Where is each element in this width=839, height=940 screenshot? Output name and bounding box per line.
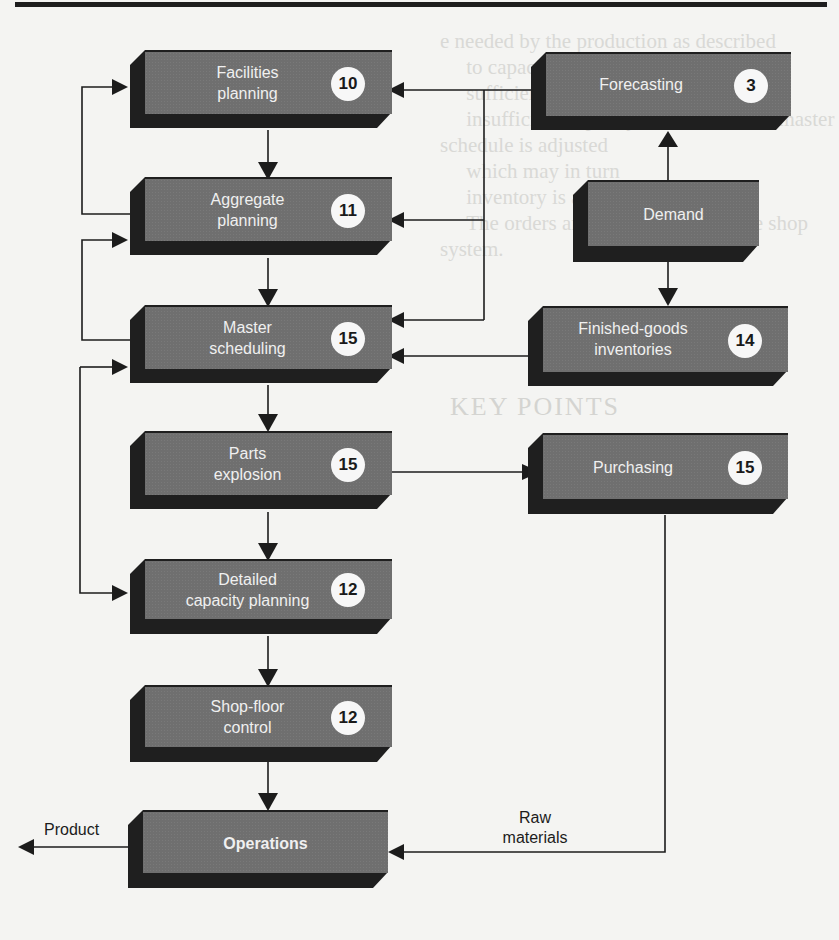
product-label: Product (44, 820, 99, 840)
block-label: Demand (588, 204, 759, 225)
block-label: Forecasting (546, 74, 736, 95)
label-line-1: Aggregate (145, 189, 350, 210)
label-line-2: explosion (145, 464, 350, 485)
block-label: Purchasing (543, 457, 723, 478)
block-operations: Operations (128, 810, 390, 890)
block-facilities-planning: Facilities planning 10 (130, 50, 392, 132)
block-label: Shop-floor control (145, 696, 350, 738)
chapter-badge: 10 (331, 67, 365, 101)
label-line-2: planning (145, 210, 350, 231)
label-line-2: control (145, 717, 350, 738)
label-line-2: inventories (543, 339, 723, 360)
chapter-badge: 15 (331, 448, 365, 482)
chapter-badge: 14 (728, 324, 762, 358)
raw-materials-line-2: materials (480, 828, 590, 848)
block-detailed-capacity-planning: Detailed capacity planning 12 (130, 559, 392, 637)
block-shop-floor-control: Shop-floor control 12 (130, 685, 392, 765)
label-line-1: Operations (143, 833, 388, 854)
block-master-scheduling: Master scheduling 15 (130, 305, 392, 387)
label-line-1: Parts (145, 443, 350, 464)
label-line-1: Facilities (145, 62, 350, 83)
block-label: Operations (143, 833, 388, 854)
label-line-1: Shop-floor (145, 696, 350, 717)
block-finished-goods-inventories: Finished-goods inventories 14 (528, 306, 790, 390)
block-label: Facilities planning (145, 62, 350, 104)
raw-materials-label: Raw materials (480, 808, 590, 848)
chapter-badge: 12 (331, 701, 365, 735)
raw-materials-line-1: Raw (480, 808, 590, 828)
label-line-2: capacity planning (145, 590, 350, 611)
block-label: Master scheduling (145, 317, 350, 359)
label-line-2: scheduling (145, 338, 350, 359)
block-purchasing: Purchasing 15 (528, 433, 790, 517)
label-line-1: Purchasing (543, 457, 723, 478)
chapter-badge: 11 (331, 194, 365, 228)
block-label: Finished-goods inventories (543, 318, 723, 360)
block-parts-explosion: Parts explosion 15 (130, 431, 392, 513)
block-label: Detailed capacity planning (145, 569, 350, 611)
label-line-1: Master (145, 317, 350, 338)
chapter-badge: 3 (734, 69, 768, 103)
label-line-1: Detailed (145, 569, 350, 590)
label-line-2: planning (145, 83, 350, 104)
block-aggregate-planning: Aggregate planning 11 (130, 177, 392, 259)
chapter-badge: 15 (331, 322, 365, 356)
chapter-badge: 15 (728, 451, 762, 485)
block-demand: Demand (573, 180, 761, 266)
block-forecasting: Forecasting 3 (531, 52, 793, 134)
block-label: Aggregate planning (145, 189, 350, 231)
block-label: Parts explosion (145, 443, 350, 485)
label-line-1: Finished-goods (543, 318, 723, 339)
label-line-1: Forecasting (546, 74, 736, 95)
label-line-1: Demand (588, 204, 759, 225)
chapter-badge: 12 (331, 573, 365, 607)
